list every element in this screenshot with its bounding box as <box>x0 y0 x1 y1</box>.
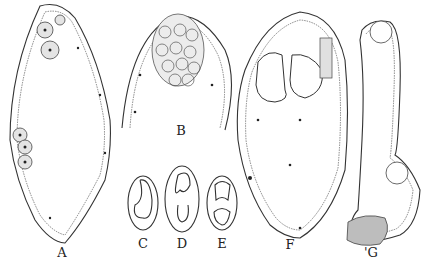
figure-drawing <box>0 0 433 267</box>
panel-a-drawing <box>10 5 110 244</box>
panel-label-c: C <box>138 236 148 251</box>
panel-label-a: A <box>57 245 66 260</box>
panel-g-drawing <box>347 21 420 245</box>
panel-label-d: D <box>177 236 187 251</box>
panel-f-drawing <box>237 12 347 238</box>
panel-label-f: F <box>285 237 294 252</box>
panel-label-b: B <box>176 123 186 138</box>
panel-label-e: E <box>217 236 227 251</box>
panel-cde-drawing <box>128 166 237 232</box>
panel-b-drawing <box>122 14 232 130</box>
panel-label-g: 'G <box>364 245 378 260</box>
